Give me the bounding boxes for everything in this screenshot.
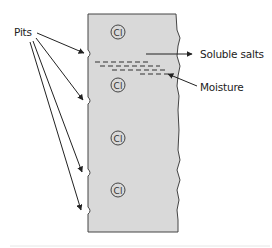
pits-arrows (30, 33, 84, 210)
svg-text:Cl: Cl (114, 134, 123, 144)
svg-text:Cl: Cl (114, 81, 123, 91)
soluble-salts-label: Soluble salts (200, 48, 264, 60)
moisture-label: Moisture (200, 81, 244, 93)
svg-text:Cl: Cl (114, 28, 123, 38)
corrosion-diagram: Cl Cl Cl Cl (0, 0, 272, 248)
pits-label: Pits (14, 26, 32, 38)
svg-text:Cl: Cl (114, 186, 123, 196)
metal-surface (88, 14, 180, 232)
